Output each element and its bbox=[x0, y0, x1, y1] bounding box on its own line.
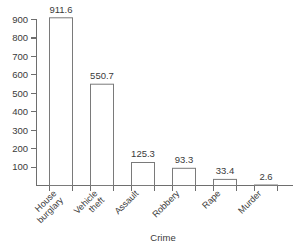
bar-murder[interactable] bbox=[255, 185, 278, 186]
bars-group bbox=[50, 18, 278, 186]
category-label-rape: Rape bbox=[200, 188, 222, 210]
category-label-assault: Assault bbox=[112, 188, 140, 216]
bar-chart-figure: 900 800 700 600 500 400 300 200 100 bbox=[0, 0, 299, 250]
y-tick-label: 400 bbox=[12, 106, 28, 117]
y-axis-ticks bbox=[31, 20, 37, 168]
category-label-murder: Murder bbox=[236, 188, 263, 215]
x-axis-title: Crime bbox=[150, 232, 175, 243]
category-label-robbery: Robbery bbox=[150, 188, 181, 219]
value-label-assault: 125.3 bbox=[131, 148, 155, 159]
bar-assault[interactable] bbox=[132, 163, 155, 186]
y-tick-label: 600 bbox=[12, 69, 28, 80]
value-label-murder: 2.6 bbox=[259, 171, 272, 182]
value-label-rape: 33.4 bbox=[216, 165, 235, 176]
bar-robbery[interactable] bbox=[173, 168, 196, 185]
value-label-robbery: 93.3 bbox=[175, 154, 194, 165]
y-axis-tick-labels: 900 800 700 600 500 400 300 200 100 bbox=[12, 14, 28, 173]
value-labels-group: 911.6 550.7 125.3 93.3 33.4 2.6 bbox=[49, 4, 272, 182]
y-tick-label: 800 bbox=[12, 32, 28, 43]
bar-vehicle-theft[interactable] bbox=[91, 84, 114, 185]
value-label-house-burglary: 911.6 bbox=[49, 4, 72, 15]
y-tick-label: 700 bbox=[12, 51, 28, 62]
y-tick-label: 900 bbox=[12, 14, 28, 25]
value-label-vehicle-theft: 550.7 bbox=[90, 70, 114, 81]
bar-house-burglary[interactable] bbox=[50, 18, 73, 186]
y-tick-label: 300 bbox=[12, 125, 28, 136]
y-tick-label: 500 bbox=[12, 88, 28, 99]
y-tick-label: 100 bbox=[12, 161, 28, 172]
x-axis-ticks bbox=[50, 186, 278, 192]
y-tick-label: 200 bbox=[12, 143, 28, 154]
chart-canvas: 900 800 700 600 500 400 300 200 100 bbox=[0, 0, 299, 250]
bar-rape[interactable] bbox=[214, 179, 237, 185]
x-axis-category-labels: House burglary Vehicle theft Assault Rob… bbox=[28, 188, 263, 225]
